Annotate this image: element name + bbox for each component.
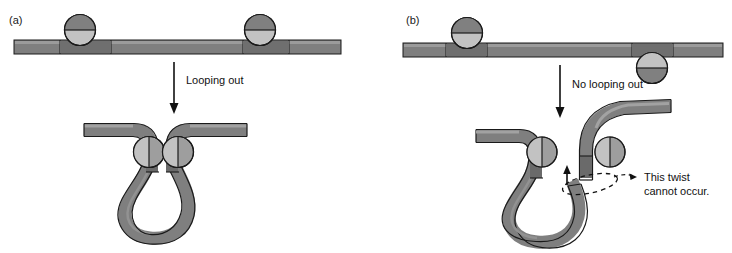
- dna-looping-figure: (a): [0, 0, 732, 253]
- panel-a-dna-bar: [14, 40, 341, 54]
- panel-b-label: (b): [406, 14, 419, 26]
- figure-canvas: (a): [0, 0, 732, 253]
- protein-circle-b-loop-left: [527, 137, 557, 167]
- protein-circle-a-loop-right: [163, 137, 194, 168]
- twist-annotation-line1: This twist: [644, 171, 690, 183]
- panel-b-dna-bar: [403, 43, 723, 57]
- protein-circle-a-loop-left: [134, 137, 165, 168]
- protein-circle-a2: [245, 15, 276, 46]
- twist-annotation-line2: cannot occur.: [644, 185, 709, 197]
- protein-circle-b1: [452, 18, 483, 49]
- panel-a-label: (a): [9, 14, 22, 26]
- protein-circle-a1: [65, 15, 96, 46]
- panel-a-transition-label: Looping out: [186, 74, 244, 86]
- protein-circle-b-loop-right: [595, 137, 625, 167]
- panel-b-transition-label: No looping out: [572, 78, 643, 90]
